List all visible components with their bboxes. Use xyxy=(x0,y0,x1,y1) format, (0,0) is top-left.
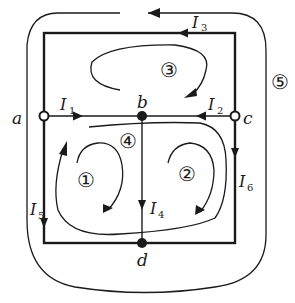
loop-4-arrow-icon xyxy=(59,141,67,156)
arrow-I6-icon xyxy=(231,148,239,158)
current-label-I5: I 5 xyxy=(29,200,44,221)
loop-2-label: ② xyxy=(178,162,196,186)
loop-3-label: ③ xyxy=(160,58,178,82)
loop-5-arrow-icon xyxy=(148,8,160,18)
svg-text:6: 6 xyxy=(247,182,253,193)
svg-text:I: I xyxy=(59,95,67,114)
node-a-label: a xyxy=(12,108,22,128)
svg-text:1: 1 xyxy=(69,105,75,116)
current-label-I1: I 1 xyxy=(59,95,75,116)
node-d-label: d xyxy=(137,250,148,270)
loop-4-label: ④ xyxy=(119,129,137,153)
node-c xyxy=(231,112,240,121)
svg-text:I: I xyxy=(238,172,246,191)
current-label-I2: I 2 xyxy=(207,95,223,116)
current-label-I6: I 6 xyxy=(238,172,253,193)
svg-text:I: I xyxy=(207,95,215,114)
svg-text:2: 2 xyxy=(217,105,223,116)
node-c-label: c xyxy=(243,108,253,128)
node-b-label: b xyxy=(137,92,148,112)
loop-3-arrow-icon xyxy=(184,88,197,98)
arrow-I3-icon xyxy=(178,29,188,38)
node-b xyxy=(137,111,147,121)
svg-text:3: 3 xyxy=(201,22,207,33)
loop-5-label: ⑤ xyxy=(271,70,289,94)
current-label-I3: I 3 xyxy=(191,13,207,33)
circuit-diagram: a b c d I 1 I 2 I 3 I 4 I 5 I 6 ① ② ③ ④ … xyxy=(0,0,295,303)
loop-3-path xyxy=(91,45,207,95)
svg-text:I: I xyxy=(191,13,199,32)
current-label-I4: I 4 xyxy=(149,199,164,220)
svg-text:I: I xyxy=(29,200,37,219)
svg-text:I: I xyxy=(149,199,157,218)
node-a xyxy=(40,112,49,121)
arrow-I2-icon xyxy=(196,112,206,121)
loop-1-label: ① xyxy=(77,168,95,192)
arrow-I4-icon xyxy=(138,200,146,210)
node-d xyxy=(137,238,147,248)
svg-text:4: 4 xyxy=(158,209,164,220)
svg-text:5: 5 xyxy=(38,210,44,221)
